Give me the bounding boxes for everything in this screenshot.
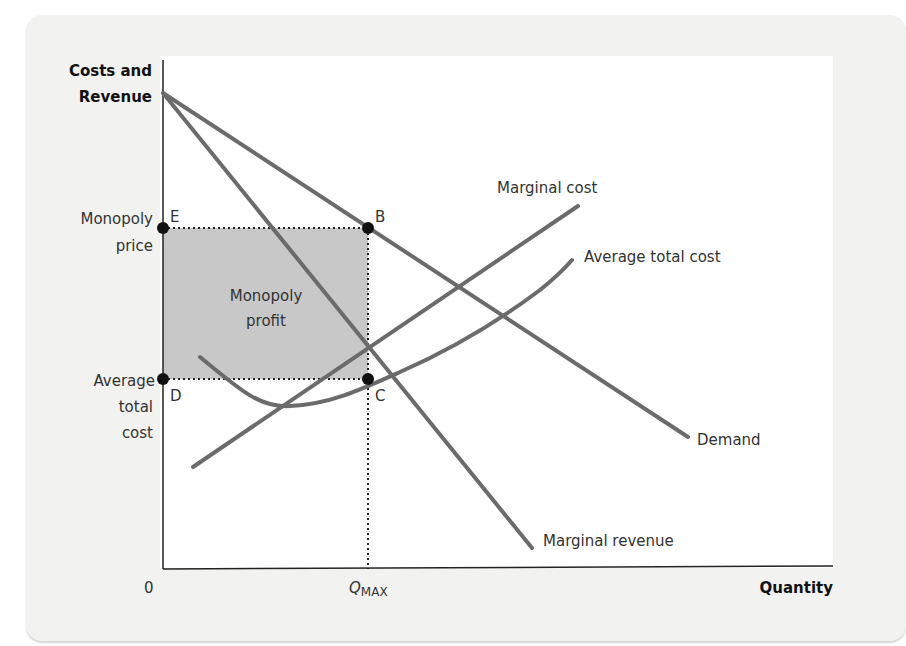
y-axis-title-line2: Revenue bbox=[79, 88, 152, 106]
average-total-cost-label: Average total cost bbox=[584, 248, 721, 266]
marginal-cost-label: Marginal cost bbox=[497, 179, 598, 197]
point-c-label: C bbox=[375, 387, 385, 405]
point-d bbox=[157, 373, 169, 385]
marginal-revenue-label: Marginal revenue bbox=[543, 532, 674, 550]
monopoly-price-label-2: price bbox=[116, 237, 153, 255]
point-e bbox=[157, 222, 169, 234]
point-e-label: E bbox=[170, 208, 179, 226]
x-axis bbox=[163, 566, 833, 569]
point-b-label: B bbox=[375, 208, 385, 226]
point-d-label: D bbox=[170, 387, 182, 405]
monopoly-price-label-1: Monopoly bbox=[80, 210, 153, 228]
atc-label-1: Average bbox=[93, 372, 155, 390]
point-c bbox=[362, 373, 374, 385]
y-axis-title-line1: Costs and bbox=[69, 62, 152, 80]
atc-label-2: total bbox=[119, 398, 153, 416]
origin-label: 0 bbox=[144, 579, 154, 597]
x-axis-title: Quantity bbox=[760, 579, 834, 597]
demand-label: Demand bbox=[697, 431, 761, 449]
profit-label-1: Monopoly bbox=[230, 287, 303, 305]
qmax-label: QMAX bbox=[349, 579, 388, 599]
point-b bbox=[362, 222, 374, 234]
atc-label-3: cost bbox=[122, 424, 153, 442]
profit-label-2: profit bbox=[246, 312, 286, 330]
